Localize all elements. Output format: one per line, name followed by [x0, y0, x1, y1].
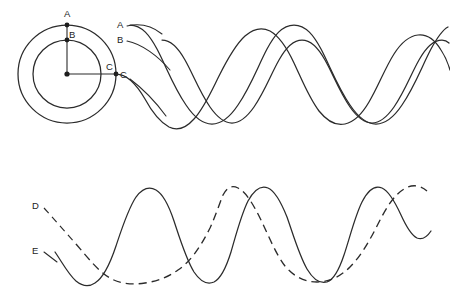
physics-wave-diagram: A B C A B C D E [0, 0, 450, 295]
leader-line-wave-d [44, 208, 76, 244]
wave-curve-d [76, 186, 427, 284]
label-point-a: A [64, 9, 71, 19]
label-wave-b: B [117, 35, 124, 45]
label-wave-a: A [117, 20, 124, 30]
leader-line-wave-e [44, 252, 57, 262]
label-wave-d: D [32, 201, 39, 211]
label-point-c: C [106, 62, 113, 72]
lower-wave-canvas [0, 0, 450, 295]
label-wave-c: C [120, 70, 127, 80]
lower-leader-lines [44, 208, 76, 262]
label-point-b: B [69, 30, 76, 40]
label-wave-e: E [32, 246, 39, 256]
wave-curve-e [55, 187, 431, 285]
